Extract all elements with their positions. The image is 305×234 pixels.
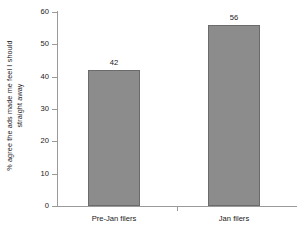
- y-tick-mark: [52, 77, 57, 78]
- x-category-label-jan-filers: Jan filers: [199, 214, 269, 223]
- y-tick-mark: [52, 206, 57, 207]
- y-tick-mark: [52, 174, 57, 175]
- y-tick-label: 50: [9, 40, 49, 48]
- y-tick-label: 30: [9, 105, 49, 113]
- bar-value-label: 56: [208, 13, 260, 22]
- bar-pre-jan-filers: [88, 70, 140, 206]
- y-tick-label: 40: [9, 73, 49, 81]
- y-tick-label: 20: [9, 137, 49, 145]
- y-tick-label: 10: [9, 170, 49, 178]
- y-tick-mark: [52, 109, 57, 110]
- y-tick-mark: [52, 44, 57, 45]
- bar-value-label: 42: [88, 58, 140, 67]
- y-tick-label: 60: [9, 8, 49, 16]
- x-tick-mark: [177, 206, 178, 211]
- x-category-label-pre-jan-filers: Pre-Jan filers: [74, 214, 154, 223]
- y-tick-mark: [52, 141, 57, 142]
- y-tick-mark: [52, 12, 57, 13]
- bar-chart: % agree the ads made me feel I should st…: [0, 0, 305, 234]
- bar-jan-filers: [208, 25, 260, 206]
- y-tick-label: 0: [9, 202, 49, 210]
- y-axis-line: [57, 11, 58, 207]
